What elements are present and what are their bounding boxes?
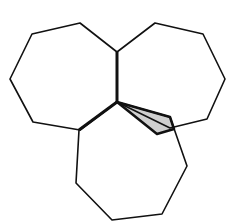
shared-edge-left	[79, 102, 117, 130]
heptagon-diagram	[0, 0, 233, 224]
